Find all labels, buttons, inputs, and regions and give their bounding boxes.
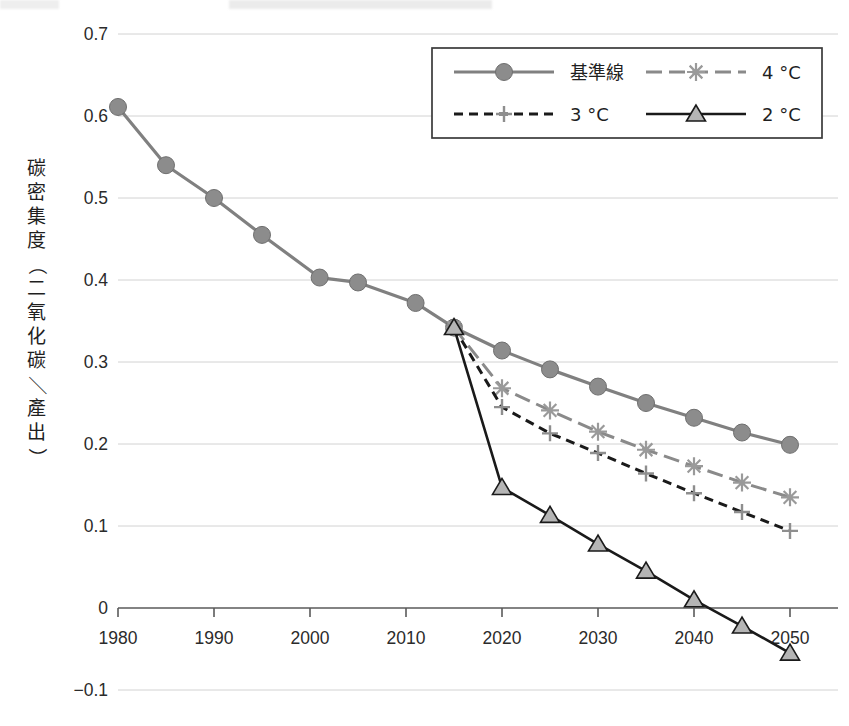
y-tick-label: 0.4 [84, 270, 109, 290]
data-point-asterisk [781, 488, 799, 506]
y-axis-title-char: 出 [27, 421, 46, 443]
y-axis-title-char: ／ [26, 376, 48, 395]
data-point-asterisk [685, 457, 703, 475]
y-axis-title-char: 氧 [27, 301, 46, 323]
data-point-asterisk [687, 63, 705, 81]
y-tick-label: 0.5 [84, 188, 108, 208]
data-point-plus [734, 504, 750, 520]
series-line [118, 107, 790, 445]
x-tick-label: 2020 [483, 628, 522, 648]
carbon-intensity-chart: 0.70.60.50.40.30.20.10−0.1 1980199020002… [0, 0, 849, 726]
data-point-triangle [493, 478, 512, 494]
data-point-circle [494, 342, 511, 359]
x-axis [118, 608, 838, 617]
y-axis-title-char: 碳 [27, 157, 46, 179]
legend-label: 基準線 [570, 62, 624, 83]
chart-canvas: 0.70.60.50.40.30.20.10−0.1 1980199020002… [0, 0, 849, 726]
x-tick-label: 1980 [99, 628, 138, 648]
data-point-circle [110, 98, 127, 115]
y-tick-label: 0.1 [84, 516, 108, 536]
data-point-circle [782, 436, 799, 453]
x-tick-label: 1990 [195, 628, 234, 648]
y-axis-title-char: （ [26, 256, 48, 275]
data-series-layer [110, 98, 800, 660]
data-point-plus [494, 399, 510, 415]
x-tick-label: 2010 [387, 628, 426, 648]
data-point-circle [254, 226, 271, 243]
x-tick-label: 2030 [579, 628, 618, 648]
data-point-triangle [685, 591, 704, 607]
y-tick-label: 0.7 [84, 24, 108, 44]
data-point-circle [590, 378, 607, 395]
data-point-circle [206, 190, 223, 207]
y-axis-title-char: 產 [27, 397, 46, 419]
data-point-circle [496, 64, 513, 81]
y-tick-label: 0.6 [84, 106, 108, 126]
data-point-plus [638, 466, 654, 482]
data-point-circle [350, 274, 367, 291]
legend-label: 3 °C [570, 104, 609, 125]
chart-legend: 基準線4 °C3 °C2 °C [432, 48, 822, 138]
series-4 [445, 319, 800, 661]
data-point-plus [590, 445, 606, 461]
y-axis-title-char: 碳 [27, 349, 46, 371]
data-point-asterisk [637, 441, 655, 459]
legend-label: 2 °C [762, 104, 801, 125]
y-axis-title-char: 二 [27, 277, 46, 299]
data-point-circle [734, 424, 751, 441]
data-point-circle [542, 361, 559, 378]
data-point-circle [407, 294, 424, 311]
data-point-asterisk [733, 474, 751, 492]
x-axis-tick-labels: 19801990200020102020203020402050 [99, 628, 810, 648]
data-point-circle [638, 395, 655, 412]
y-axis-title-char: 化 [27, 325, 46, 347]
data-point-asterisk [589, 423, 607, 441]
data-point-circle [686, 409, 703, 426]
data-point-plus [542, 425, 558, 441]
legend-label: 4 °C [762, 62, 801, 83]
y-tick-label: −0.1 [73, 680, 108, 700]
data-point-plus [686, 485, 702, 501]
data-point-triangle [733, 617, 752, 633]
data-point-circle [158, 157, 175, 174]
y-tick-label: 0.2 [84, 434, 108, 454]
data-point-asterisk [541, 401, 559, 419]
data-point-plus [782, 523, 798, 539]
y-tick-label: 0.3 [84, 352, 108, 372]
x-tick-label: 2000 [291, 628, 330, 648]
data-point-triangle [589, 535, 608, 551]
data-point-circle [311, 269, 328, 286]
x-tick-label: 2040 [675, 628, 714, 648]
y-axis-title-char: 集 [27, 205, 46, 227]
y-axis-title-char: 度 [27, 229, 46, 251]
y-axis-title: 碳密集度（二氧化碳／產出） [26, 157, 48, 467]
y-axis-tick-labels: 0.70.60.50.40.30.20.10−0.1 [73, 24, 108, 700]
series-1 [110, 98, 799, 453]
y-axis-title-char: 密 [27, 181, 46, 203]
y-tick-label: 0 [98, 598, 108, 618]
y-axis-title-char: ） [26, 448, 48, 467]
data-point-triangle [541, 506, 560, 522]
data-point-triangle [637, 562, 656, 578]
